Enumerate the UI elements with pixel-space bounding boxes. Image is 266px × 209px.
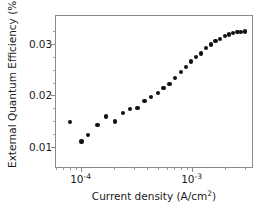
plot-frame: 0.010.020.0310-410-3: [55, 15, 253, 168]
data-point: [86, 133, 90, 137]
data-point: [79, 139, 83, 143]
x-axis-minor-tick: [76, 167, 77, 170]
data-point: [213, 39, 217, 43]
y-axis-minor-tick: [53, 57, 57, 58]
data-point: [173, 76, 177, 80]
x-axis-tick: [192, 167, 193, 172]
x-axis-minor-tick: [70, 167, 71, 170]
y-axis-minor-tick: [53, 31, 57, 32]
x-axis-tick-label: 10-4: [70, 173, 91, 185]
y-axis-minor-tick: [53, 70, 57, 71]
x-axis-title-text: Current density (A/cm: [92, 190, 207, 202]
data-point: [156, 91, 160, 95]
data-point: [243, 29, 247, 33]
chart-figure: External Quantum Efficiency (%) 0.010.02…: [0, 0, 266, 209]
x-axis-minor-tick: [245, 167, 246, 170]
x-axis-minor-tick: [56, 167, 57, 170]
data-point: [194, 55, 198, 59]
x-axis-minor-tick: [187, 167, 188, 170]
x-axis-tick-mantissa: 10: [181, 173, 194, 185]
y-axis-tick-label: 0.03: [29, 38, 52, 50]
x-axis-tick-mantissa: 10: [70, 173, 83, 185]
x-axis-minor-tick: [114, 167, 115, 170]
y-axis-title: External Quantum Efficiency (%): [6, 15, 20, 168]
y-axis-minor-tick: [53, 121, 57, 122]
data-point: [179, 70, 183, 74]
data-point: [199, 51, 203, 55]
data-point: [204, 46, 208, 50]
data-point: [121, 111, 125, 115]
x-axis-minor-tick: [63, 167, 64, 170]
x-axis-title-tail: ): [212, 190, 216, 202]
x-axis-tick-exponent: -3: [195, 172, 202, 181]
data-point: [184, 65, 188, 69]
y-axis-minor-tick: [53, 108, 57, 109]
x-axis-tick-label: 10-3: [181, 173, 202, 185]
x-axis-title: Current density (A/cm2): [55, 190, 253, 202]
data-plot-area: [56, 16, 252, 167]
data-point: [128, 107, 132, 111]
data-point: [218, 37, 222, 41]
data-point: [135, 106, 139, 110]
data-point: [149, 95, 153, 99]
x-axis-minor-tick: [174, 167, 175, 170]
data-point: [113, 119, 117, 123]
y-axis-minor-tick: [53, 134, 57, 135]
x-axis-minor-tick: [167, 167, 168, 170]
data-point: [142, 99, 146, 103]
x-axis-minor-tick: [158, 167, 159, 170]
y-axis-tick-label: 0.02: [29, 89, 52, 101]
x-axis-minor-tick: [181, 167, 182, 170]
data-point: [209, 42, 213, 46]
data-point: [167, 82, 171, 86]
y-axis-tick-label: 0.01: [29, 141, 52, 153]
data-point: [95, 123, 99, 127]
x-axis-tick: [81, 167, 82, 172]
data-point: [68, 120, 72, 124]
x-axis-tick-exponent: -4: [84, 172, 91, 181]
x-axis-minor-tick: [225, 167, 226, 170]
data-point: [161, 86, 165, 90]
data-point: [189, 59, 193, 63]
x-axis-minor-tick: [134, 167, 135, 170]
y-axis-minor-tick: [53, 83, 57, 84]
data-point: [104, 114, 108, 118]
x-axis-minor-tick: [147, 167, 148, 170]
